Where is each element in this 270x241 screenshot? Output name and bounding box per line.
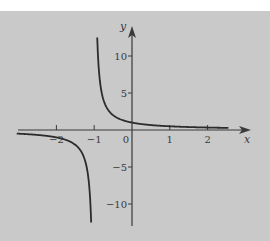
x-tick-label: −1 [87,134,102,145]
chart: −2−1012−10−5510 x y [0,0,270,241]
x-tick-label: 2 [204,134,210,145]
x-tick-label: 1 [167,134,173,145]
y-tick-label: 5 [121,88,127,99]
curve-left-branch [17,134,91,223]
y-tick-label: −10 [106,199,127,210]
x-tick-label: 0 [123,134,129,145]
y-axis-label: y [119,20,127,33]
y-tick-label: 10 [114,51,127,62]
x-axis-label: x [244,133,251,146]
y-tick-label: −5 [112,162,127,173]
axes [18,26,251,226]
